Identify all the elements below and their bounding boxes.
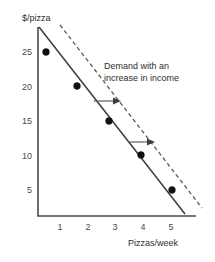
data-point: [169, 187, 176, 194]
y-tick-label-15: 15: [14, 116, 32, 126]
x-tick-label-5: 5: [164, 222, 178, 232]
shift-annotation-line2: increase in income: [104, 72, 208, 84]
shift-annotation-line1: Demand with an: [104, 60, 208, 72]
x-axis-title: Pizzas/week: [128, 238, 178, 248]
x-tick-label-1: 1: [53, 222, 67, 232]
x-tick-label-3: 3: [108, 222, 122, 232]
x-tick-label-4: 4: [136, 222, 150, 232]
y-tick-label-10: 10: [14, 151, 32, 161]
data-point: [106, 118, 113, 125]
shifted-demand-line: [60, 25, 202, 208]
x-tick-label-2: 2: [81, 222, 95, 232]
y-tick-label-25: 25: [14, 47, 32, 57]
data-point: [74, 83, 81, 90]
shift-arrow-lower-head: [147, 139, 155, 146]
y-tick-label-20: 20: [14, 82, 32, 92]
shift-annotation: Demand with an increase in income: [104, 60, 208, 84]
demand-curve-chart: $/pizza Pizzas/week 25 20 15 10 5 1 2 3 …: [0, 0, 215, 262]
y-axis-title: $/pizza: [22, 13, 51, 23]
data-point: [43, 49, 50, 56]
y-tick-label-5: 5: [14, 185, 32, 195]
data-point: [138, 152, 145, 159]
